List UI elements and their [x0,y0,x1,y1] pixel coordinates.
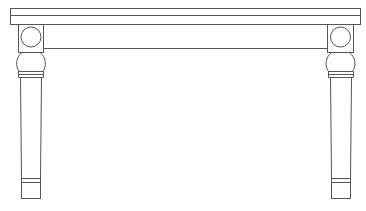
right-leg [326,25,355,199]
table-top [11,9,361,25]
left-rosette-circle [21,27,41,47]
right-leg-bulb [326,53,355,72]
left-leg-bulb [17,53,46,72]
right-leg-foot [332,179,351,199]
table-elevation-svg [0,0,366,211]
right-leg-shaft [331,78,352,179]
left-leg-foot [22,179,41,199]
left-leg-shaft [21,78,42,179]
right-rosette-circle [331,27,351,47]
table-drawing [0,0,366,211]
left-leg-block [19,25,44,53]
right-leg-block [328,25,354,53]
left-leg [17,25,46,199]
